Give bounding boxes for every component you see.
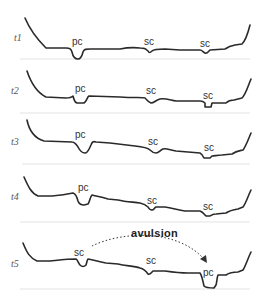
channel-label-pc: pc (72, 36, 83, 47)
channel-label-sc: sc (74, 247, 84, 258)
time-label: t1 (14, 32, 22, 43)
time-label: t2 (11, 85, 19, 96)
avulsion-cross-section-diagram: t1 pc sc sc t2 pc sc sc t3 pc sc sc t4 p… (0, 0, 260, 301)
profile-row-t1: t1 pc sc sc (14, 18, 250, 59)
channel-label-sc: sc (148, 136, 158, 147)
profile-row-t2: t2 pc sc sc (11, 71, 251, 113)
profile-row-t4: t4 pc sc sc (11, 177, 251, 222)
time-label: t3 (11, 136, 19, 147)
channel-profile (24, 177, 251, 216)
channel-label-pc: pc (75, 83, 86, 94)
channel-label-sc: sc (144, 36, 154, 47)
channel-label-pc: pc (203, 267, 214, 278)
profile-row-t5: t5 sc sc pc avulsion (11, 227, 251, 289)
channel-label-sc: sc (204, 142, 214, 153)
channel-label-sc: sc (146, 255, 156, 266)
time-label: t4 (11, 191, 19, 202)
channel-profile (27, 71, 251, 107)
profile-row-t3: t3 pc sc sc (11, 120, 251, 164)
channel-label-pc: pc (78, 182, 89, 193)
channel-profile (27, 120, 251, 158)
channel-profile (23, 243, 251, 288)
channel-label-sc: sc (200, 38, 210, 49)
channel-label-sc: sc (203, 201, 213, 212)
channel-label-sc: sc (146, 85, 156, 96)
channel-profile (25, 18, 250, 59)
time-label: t5 (11, 258, 19, 269)
avulsion-label: avulsion (131, 227, 178, 239)
channel-label-sc: sc (203, 90, 213, 101)
channel-label-sc: sc (147, 195, 157, 206)
channel-label-pc: pc (75, 129, 86, 140)
